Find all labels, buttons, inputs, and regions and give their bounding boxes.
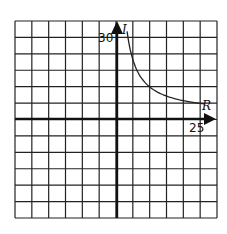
- chart: 30 25 I R: [0, 0, 227, 234]
- x-axis-arrow-icon: [204, 113, 216, 125]
- y-tick-label: 30: [98, 31, 113, 45]
- y-variable-label: I: [121, 23, 127, 37]
- x-tick-label: 25: [189, 121, 204, 135]
- x-variable-label: R: [201, 99, 211, 113]
